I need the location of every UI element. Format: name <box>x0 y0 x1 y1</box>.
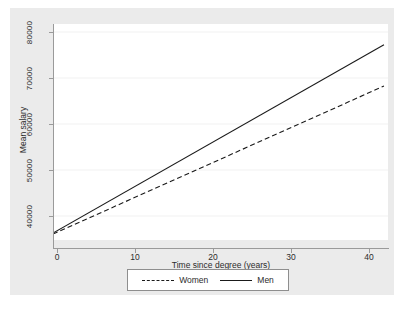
y-tick-60000 <box>49 124 53 125</box>
y-tick-label-80000: 80000 <box>25 18 34 48</box>
y-axis-line <box>53 24 54 249</box>
plot-svg <box>53 24 388 240</box>
graph-canvas: 80000 70000 60000 50000 40000 Mean salar… <box>10 8 394 295</box>
y-tick-50000 <box>49 170 53 171</box>
chart-page: 80000 70000 60000 50000 40000 Mean salar… <box>0 0 404 309</box>
y-tick-80000 <box>49 32 53 33</box>
series-line-women <box>53 86 384 234</box>
y-axis-title: Mean salary <box>18 95 28 165</box>
y-tick-label-70000: 70000 <box>25 64 34 94</box>
y-tick-label-40000: 40000 <box>25 202 34 232</box>
x-axis-line <box>53 248 389 249</box>
legend-label-men: Men <box>257 275 274 285</box>
plot-region <box>53 24 388 240</box>
legend-label-women: Women <box>179 275 208 285</box>
y-tick-70000 <box>49 78 53 79</box>
legend-key-solid-icon <box>220 280 252 281</box>
legend-key-dashed-icon <box>142 280 174 281</box>
legend-entry-men: Men <box>214 275 280 285</box>
series-line-men <box>53 45 384 233</box>
y-tick-40000 <box>49 216 53 217</box>
gridlines <box>53 32 388 216</box>
legend-entry-women: Women <box>136 275 214 285</box>
chart-legend: Women Men <box>127 269 289 291</box>
